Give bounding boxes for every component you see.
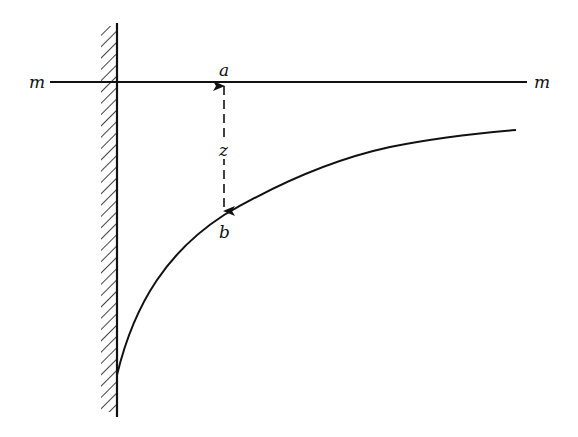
label-m-right: m	[534, 72, 550, 92]
label-distance-z: z	[218, 140, 229, 160]
surface-curve	[117, 130, 516, 375]
diagram-canvas: m m a b z	[0, 0, 578, 437]
label-m-left: m	[29, 72, 45, 92]
wall-hatching	[101, 26, 117, 412]
label-point-b: b	[219, 222, 230, 242]
label-point-a: a	[219, 60, 229, 80]
